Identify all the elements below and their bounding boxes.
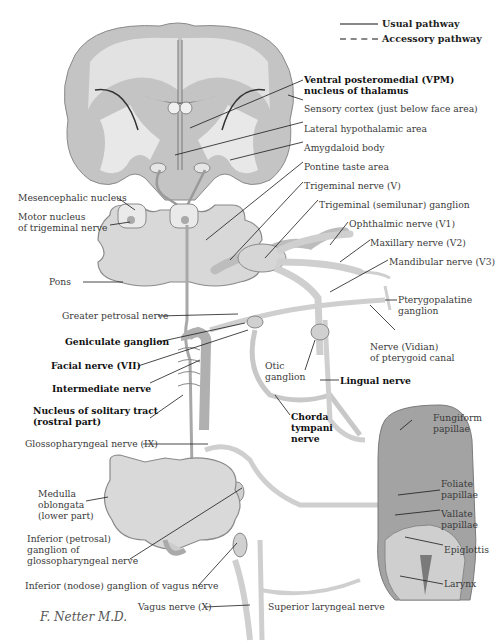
label-superior-laryngeal-nerve: Superior laryngeal nerve [268, 601, 385, 612]
label-line: Foliate [441, 478, 478, 489]
label-pontine-taste-area: Pontine taste area [304, 161, 389, 172]
label-line: nerve [291, 433, 333, 444]
label-line: Otic [265, 360, 305, 371]
label-line: Inferior (petrosal) [27, 533, 138, 544]
label-pterygopalatine-ganglion: Pterygopalatine ganglion [398, 294, 472, 316]
legend-usual-pathway: Usual pathway [340, 16, 482, 31]
label-line: Pterygopalatine [398, 294, 472, 305]
label-chorda-tympani: Chorda tympani nerve [291, 411, 333, 444]
label-line: Ventral posteromedial (VPM) [304, 74, 454, 85]
brain-coronal-section [64, 23, 293, 200]
label-line: Medulla [38, 488, 94, 499]
label-line: papillae [441, 489, 478, 500]
label-facial-nerve: Facial nerve (VII) [51, 360, 141, 371]
label-trigeminal-ganglion: Trigeminal (semilunar) ganglion [319, 199, 470, 210]
label-mandibular-nerve: Mandibular nerve (V3) [389, 256, 495, 267]
label-vagus-nerve: Vagus nerve (X) [138, 601, 212, 612]
label-amygdaloid-body: Amygdaloid body [304, 142, 384, 153]
label-line: Motor nucleus [18, 211, 107, 222]
label-vpm: Ventral posteromedial (VPM) nucleus of t… [304, 74, 454, 96]
label-line: (rostral part) [33, 416, 158, 427]
label-pons: Pons [49, 276, 71, 287]
label-maxillary-nerve: Maxillary nerve (V2) [370, 237, 466, 248]
label-medulla-oblongata: Medulla oblongata (lower part) [38, 488, 94, 521]
label-epiglottis: Epiglottis [444, 544, 489, 555]
label-line: ganglion of [27, 544, 138, 555]
label-foliate-papillae: Foliate papillae [441, 478, 478, 500]
label-line: nucleus of thalamus [304, 85, 454, 96]
solid-line-icon [340, 23, 378, 25]
label-line: papillae [433, 423, 482, 434]
label-mesencephalic-nucleus: Mesencephalic nucleus [18, 192, 127, 203]
label-geniculate-ganglion: Geniculate ganglion [65, 336, 169, 347]
label-intermediate-nerve: Intermediate nerve [52, 383, 151, 394]
label-line: Vallate [441, 508, 478, 519]
label-fungiform-papillae: Fungiform papillae [433, 412, 482, 434]
label-nodose-ganglion: Inferior (nodose) ganglion of vagus nerv… [25, 580, 218, 591]
legend: Usual pathway Accessory pathway [340, 16, 482, 46]
label-line: oblongata [38, 499, 94, 510]
label-line: (lower part) [38, 510, 94, 521]
label-trigeminal-nerve: Trigeminal nerve (V) [304, 180, 401, 191]
label-line: Nucleus of solitary tract [33, 405, 158, 416]
label-glossopharyngeal-nerve: Glossopharyngeal nerve (IX) [25, 438, 158, 449]
label-line: of pterygoid canal [370, 352, 455, 363]
label-line: Chorda [291, 411, 333, 422]
pons [98, 204, 262, 286]
label-petrosal-ganglion: Inferior (petrosal) ganglion of glossoph… [27, 533, 138, 566]
label-line: glossopharyngeal nerve [27, 555, 138, 566]
label-line: of trigeminal nerve [18, 222, 107, 233]
legend-label: Usual pathway [382, 18, 460, 29]
label-line: tympani [291, 422, 333, 433]
tongue [378, 405, 476, 600]
label-solitary-tract: Nucleus of solitary tract (rostral part) [33, 405, 158, 427]
label-line: Nerve (Vidian) [370, 341, 455, 352]
label-motor-nucleus: Motor nucleus of trigeminal nerve [18, 211, 107, 233]
label-line: Fungiform [433, 412, 482, 423]
label-sensory-cortex: Sensory cortex (just below face area) [304, 103, 478, 114]
label-vallate-papillae: Vallate papillae [441, 508, 478, 530]
label-line: ganglion [265, 371, 305, 382]
label-line: papillae [441, 519, 478, 530]
label-otic-ganglion: Otic ganglion [265, 360, 305, 382]
label-vidian-nerve: Nerve (Vidian) of pterygoid canal [370, 341, 455, 363]
label-lateral-hypothalamic-area: Lateral hypothalamic area [304, 123, 427, 134]
taste-pathway-diagram: Usual pathway Accessory pathway Ventral … [0, 0, 499, 644]
trigeminal-nerve [215, 232, 390, 355]
label-greater-petrosal-nerve: Greater petrosal nerve [62, 310, 168, 321]
legend-label: Accessory pathway [382, 33, 482, 44]
label-ophthalmic-nerve: Ophthalmic nerve (V1) [349, 218, 455, 229]
legend-accessory-pathway: Accessory pathway [340, 31, 482, 46]
label-larynx: Larynx [444, 578, 476, 589]
artist-signature: F. Netter M.D. [40, 612, 127, 623]
label-line: ganglion [398, 305, 472, 316]
dashed-line-icon [340, 38, 378, 40]
label-lingual-nerve: Lingual nerve [340, 375, 411, 386]
